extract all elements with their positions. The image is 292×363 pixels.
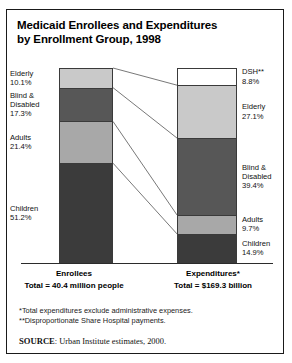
footnotes: *Total expenditures exclude administrati… [19, 306, 269, 326]
segment-blind-disabled [60, 89, 112, 123]
segment-elderly [60, 69, 112, 89]
axis-label-expenditures: Expenditures* [153, 268, 273, 280]
figure-panel: Medicaid Enrollees and Expenditures by E… [6, 9, 284, 354]
axis-label-enrollees: Enrollees [21, 268, 127, 280]
segment-children [60, 164, 112, 264]
axis-baseline [21, 263, 273, 264]
segment-children [178, 235, 236, 264]
source-prefix: SOURCE [19, 336, 55, 346]
connector-line [113, 68, 177, 85]
label-left-elderly: Elderly10.1% [10, 69, 56, 87]
axis-caption-expenditures: Expenditures* Total = $169.3 billion [153, 268, 273, 291]
segment-adults [60, 122, 112, 164]
chart-title: Medicaid Enrollees and Expenditures by E… [17, 19, 257, 46]
footnote-2: **Disproportionate Share Hospital paymen… [19, 316, 269, 326]
label-right-adults: Adults9.7% [242, 215, 290, 233]
label-left-adults: Adults21.4% [10, 133, 56, 151]
label-left-blind-disabled: Blind &Disabled17.3% [10, 91, 56, 119]
label-right-elderly: Elderly27.1% [242, 102, 290, 120]
connector-line [113, 88, 177, 138]
label-right-dsh: DSH**8.8% [242, 67, 290, 85]
segment-adults [178, 216, 236, 235]
bar-enrollees [59, 68, 113, 263]
axis-total-enrollees: Total = 40.4 million people [21, 280, 127, 292]
plot-area: Elderly10.1%Blind &Disabled17.3%Adults21… [7, 54, 283, 262]
segment-blind-disabled [178, 139, 236, 216]
axis-caption-enrollees: Enrollees Total = 40.4 million people [21, 268, 127, 291]
source-text: : Urban Institute estimates, 2000. [55, 337, 166, 346]
bar-expenditures [177, 68, 237, 263]
source-line: SOURCE: Urban Institute estimates, 2000. [19, 336, 269, 346]
label-left-children: Children51.2% [10, 204, 56, 222]
axis-total-expenditures: Total = $169.3 billion [153, 280, 273, 292]
label-right-blind-disabled: Blind &Disabled39.4% [242, 163, 290, 191]
connector-line [113, 163, 177, 234]
chart-title-line-2: by Enrollment Group, 1998 [17, 33, 257, 47]
chart-title-line-1: Medicaid Enrollees and Expenditures [17, 19, 257, 33]
label-right-children: Children14.9% [242, 239, 290, 257]
connector-line [113, 121, 177, 215]
segment-elderly [178, 86, 236, 139]
segment-dsh [178, 69, 236, 86]
footnote-1: *Total expenditures exclude administrati… [19, 306, 269, 316]
